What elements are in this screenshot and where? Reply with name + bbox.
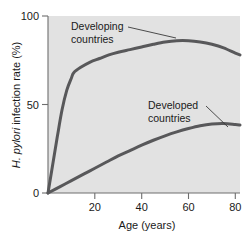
x-axis-title: Age (years) bbox=[119, 219, 176, 231]
developed-countries-label-line1: Developed bbox=[148, 99, 198, 111]
y-tick-label-0: 0 bbox=[33, 187, 39, 199]
x-tick-label-40: 40 bbox=[136, 201, 148, 213]
developed-countries-label-line2: countries bbox=[148, 112, 191, 124]
chart-canvas: 100 50 0 20 40 60 80 Age (years) H. pylo… bbox=[0, 0, 250, 239]
y-tick-label-50: 50 bbox=[27, 99, 39, 111]
developing-countries-label-line2: countries bbox=[71, 33, 114, 45]
y-axis-title-italic: H. pylori bbox=[10, 127, 22, 168]
developing-countries-label-line1: Developing bbox=[71, 20, 124, 32]
y-axis-title: H. pylori infection rate (%) bbox=[10, 42, 22, 169]
x-tick-label-20: 20 bbox=[89, 201, 101, 213]
y-axis-title-rest: infection rate (%) bbox=[10, 42, 22, 128]
chart-figure: 100 50 0 20 40 60 80 Age (years) H. pylo… bbox=[0, 0, 250, 239]
x-tick-label-60: 60 bbox=[182, 201, 194, 213]
y-tick-label-100: 100 bbox=[21, 10, 39, 22]
x-tick-label-80: 80 bbox=[229, 201, 241, 213]
